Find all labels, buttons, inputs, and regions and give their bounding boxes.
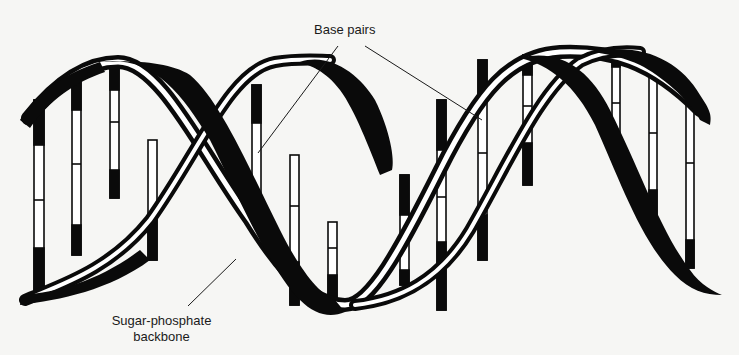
dna-double-helix-diagram [0, 0, 739, 355]
leader-line-base-pairs-right [365, 46, 482, 120]
rung [72, 70, 81, 255]
leader-line-backbone [188, 259, 236, 306]
rung [686, 103, 694, 268]
label-sugar-phosphate-backbone: Sugar-phosphate backbone [94, 313, 229, 345]
rung [34, 100, 44, 290]
rung [649, 62, 657, 217]
rung [148, 140, 157, 260]
rung [437, 100, 446, 310]
label-backbone-line1: Sugar-phosphate [94, 313, 229, 329]
rung [110, 68, 119, 198]
label-backbone-line2: backbone [94, 329, 229, 345]
label-base-pairs: Base pairs [314, 22, 375, 38]
label-base-pairs-text: Base pairs [314, 22, 375, 38]
